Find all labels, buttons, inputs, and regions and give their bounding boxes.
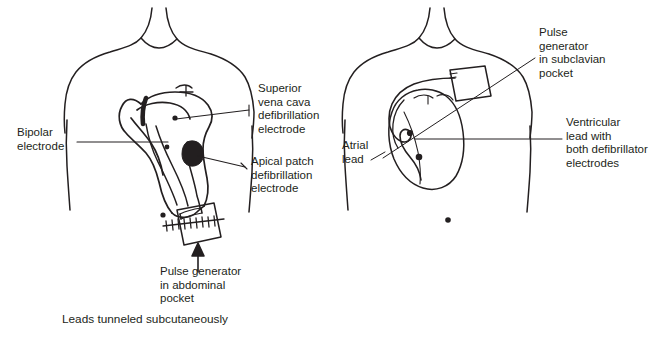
svc-defibrillation-electrode bbox=[143, 98, 146, 124]
right-navel-dot bbox=[445, 217, 451, 223]
right-torso-outline bbox=[342, 8, 532, 212]
distal-defib-electrode-dot bbox=[416, 154, 423, 161]
apical-patch-electrode bbox=[182, 141, 204, 166]
label-apical-patch-electrode: Apical patch defibrillation electrode bbox=[251, 155, 343, 196]
svc-electrode-dot bbox=[172, 115, 177, 120]
label-abdominal-pulse-generator: Pulse generator in abdominal pocket bbox=[160, 265, 270, 306]
label-ventricular-lead: Ventricular lead with both defibrillator… bbox=[566, 116, 668, 170]
label-subclavian-pulse-generator: Pulse generator in subclavian pocket bbox=[539, 26, 649, 80]
caption-leads-tunneled: Leads tunneled subcutaneously bbox=[62, 313, 272, 327]
left-electrode-dots bbox=[165, 115, 178, 149]
subclavian-pulse-generator bbox=[450, 66, 491, 101]
tunneled-lead-hatched bbox=[163, 216, 224, 231]
left-leader-lines bbox=[77, 105, 249, 169]
leader-pulse-generator-right bbox=[383, 58, 535, 158]
label-superior-vena-cava-electrode: Superior vena cava defibrillation electr… bbox=[258, 82, 348, 136]
left-navel-dot bbox=[160, 212, 165, 217]
bipolar-electrode-dot bbox=[165, 145, 170, 150]
label-atrial-lead: Atrial lead bbox=[342, 139, 402, 166]
figure-canvas: Bipolar electrode Superior vena cava def… bbox=[0, 0, 668, 339]
proximal-defib-electrode-dot bbox=[407, 130, 413, 136]
label-bipolar-electrode: Bipolar electrode bbox=[17, 126, 97, 153]
